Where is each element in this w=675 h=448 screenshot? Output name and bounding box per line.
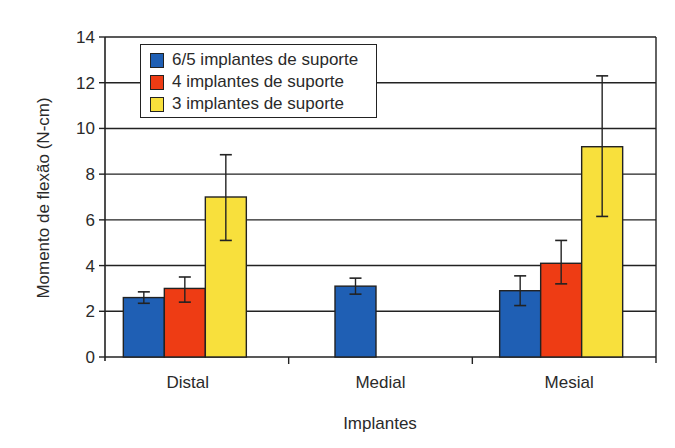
y-tick-label: 10 — [76, 119, 95, 138]
x-tick-label: Distal — [167, 373, 210, 392]
legend-item-4-implants: 4 implantes de suporte — [150, 71, 376, 93]
y-tick-label: 8 — [86, 165, 95, 184]
x-axis-label: Implantes — [343, 414, 417, 434]
bar — [335, 286, 376, 357]
legend-item-3-implants: 3 implantes de suporte — [150, 93, 376, 115]
y-tick-label: 2 — [86, 302, 95, 321]
y-tick-label: 6 — [86, 211, 95, 230]
x-tick-label: Mesial — [545, 373, 594, 392]
legend-swatch-blue — [150, 53, 164, 68]
y-axis-label: Momento de flexão (N-cm) — [34, 97, 54, 298]
legend-swatch-red — [150, 75, 164, 90]
y-tick-label: 12 — [76, 74, 95, 93]
y-tick-label: 4 — [86, 257, 95, 276]
legend-swatch-yellow — [150, 97, 164, 112]
legend-item-6-5-implants: 6/5 implantes de suporte — [150, 49, 376, 71]
legend-label: 3 implantes de suporte — [172, 94, 344, 114]
bar — [123, 298, 164, 357]
legend-label: 6/5 implantes de suporte — [172, 50, 358, 70]
x-tick-label: Medial — [355, 373, 405, 392]
y-tick-label: 0 — [86, 348, 95, 367]
legend: 6/5 implantes de suporte 4 implantes de … — [140, 44, 377, 118]
y-tick-label: 14 — [76, 28, 95, 47]
legend-label: 4 implantes de suporte — [172, 72, 344, 92]
